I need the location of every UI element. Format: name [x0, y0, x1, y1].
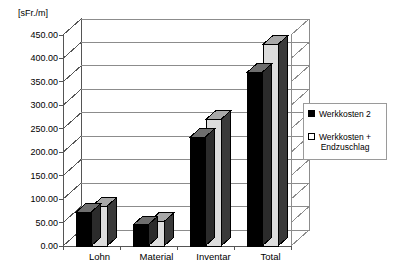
bar-chart: [sFr./m] 450.00400.00350.00300.00250.002… [0, 0, 395, 273]
legend-swatch-icon [308, 133, 315, 140]
x-axis-tick-label: Lohn [89, 252, 110, 262]
legend-label: Werkkosten 2 [319, 109, 371, 120]
legend-label: Werkkosten + Endzuschlag [319, 132, 371, 153]
legend-item[interactable]: Werkkosten + Endzuschlag [308, 132, 382, 153]
x-axis-tick-labels: LohnMaterialInventarTotal [0, 252, 320, 268]
chart-legend: Werkkosten 2Werkkosten + Endzuschlag [303, 103, 387, 160]
legend-item[interactable]: Werkkosten 2 [308, 109, 382, 120]
x-axis-tick-label: Total [260, 252, 280, 262]
x-axis-tick-label: Material [140, 252, 174, 262]
legend-swatch-icon [308, 110, 315, 117]
x-axis-tick-label: Inventar [196, 252, 230, 262]
